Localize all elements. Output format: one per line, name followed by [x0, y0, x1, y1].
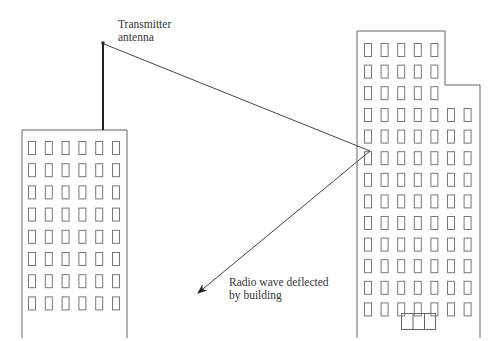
window	[431, 130, 438, 143]
window	[96, 230, 103, 243]
window	[113, 230, 120, 243]
window	[398, 238, 405, 251]
window	[381, 152, 388, 165]
window	[365, 130, 372, 143]
window	[431, 44, 438, 57]
right-building	[357, 31, 480, 338]
window	[414, 281, 421, 294]
window	[398, 44, 405, 57]
window	[62, 164, 69, 177]
window	[398, 152, 405, 165]
window	[79, 253, 86, 266]
window	[113, 297, 120, 310]
window	[431, 87, 438, 100]
window	[29, 208, 36, 221]
window	[365, 109, 372, 122]
window	[45, 164, 52, 177]
window	[381, 44, 388, 57]
window	[62, 230, 69, 243]
window	[431, 173, 438, 186]
window	[464, 260, 471, 273]
right-building-windows	[365, 44, 472, 316]
window	[398, 109, 405, 122]
window	[431, 152, 438, 165]
deflected-wave-arrow	[198, 151, 370, 293]
window	[414, 260, 421, 273]
window	[414, 130, 421, 143]
window	[431, 260, 438, 273]
window	[414, 195, 421, 208]
window	[79, 208, 86, 221]
window	[431, 195, 438, 208]
window	[113, 164, 120, 177]
window	[431, 217, 438, 230]
window	[45, 275, 52, 288]
window	[381, 303, 388, 316]
window	[365, 87, 372, 100]
window	[398, 260, 405, 273]
window	[96, 208, 103, 221]
window	[113, 186, 120, 199]
window	[464, 238, 471, 251]
window	[381, 65, 388, 78]
window	[45, 208, 52, 221]
window	[96, 275, 103, 288]
window	[448, 152, 455, 165]
window	[398, 195, 405, 208]
window	[464, 173, 471, 186]
window	[29, 186, 36, 199]
window	[365, 44, 372, 57]
window	[448, 173, 455, 186]
window	[79, 186, 86, 199]
window	[414, 173, 421, 186]
window	[381, 260, 388, 273]
window	[45, 253, 52, 266]
window	[398, 130, 405, 143]
window	[79, 275, 86, 288]
transmitter-label-line2: antenna	[118, 31, 171, 44]
window	[365, 303, 372, 316]
radio-wave-path	[104, 44, 370, 293]
window	[398, 173, 405, 186]
window	[464, 109, 471, 122]
window	[464, 217, 471, 230]
window	[365, 152, 372, 165]
window	[431, 109, 438, 122]
window	[96, 164, 103, 177]
window	[464, 152, 471, 165]
window	[448, 238, 455, 251]
window	[381, 109, 388, 122]
window	[113, 208, 120, 221]
window	[62, 208, 69, 221]
window	[29, 275, 36, 288]
window	[45, 297, 52, 310]
window	[414, 109, 421, 122]
window	[414, 152, 421, 165]
left-building-windows	[29, 142, 120, 310]
window	[62, 275, 69, 288]
transmitter-label-line1: Transmitter	[118, 18, 171, 31]
deflected-label-line2: by building	[229, 289, 329, 302]
window	[381, 173, 388, 186]
window	[79, 164, 86, 177]
window	[96, 253, 103, 266]
window	[113, 253, 120, 266]
window	[45, 230, 52, 243]
window	[96, 142, 103, 155]
window	[464, 281, 471, 294]
window	[448, 281, 455, 294]
window	[365, 260, 372, 273]
window	[45, 142, 52, 155]
window	[398, 65, 405, 78]
window	[96, 186, 103, 199]
window	[62, 186, 69, 199]
window	[365, 217, 372, 230]
incident-wave-line	[104, 44, 370, 151]
window	[365, 195, 372, 208]
window	[398, 87, 405, 100]
window	[365, 281, 372, 294]
window	[381, 281, 388, 294]
window	[464, 303, 471, 316]
left-building	[22, 130, 127, 338]
window	[45, 186, 52, 199]
